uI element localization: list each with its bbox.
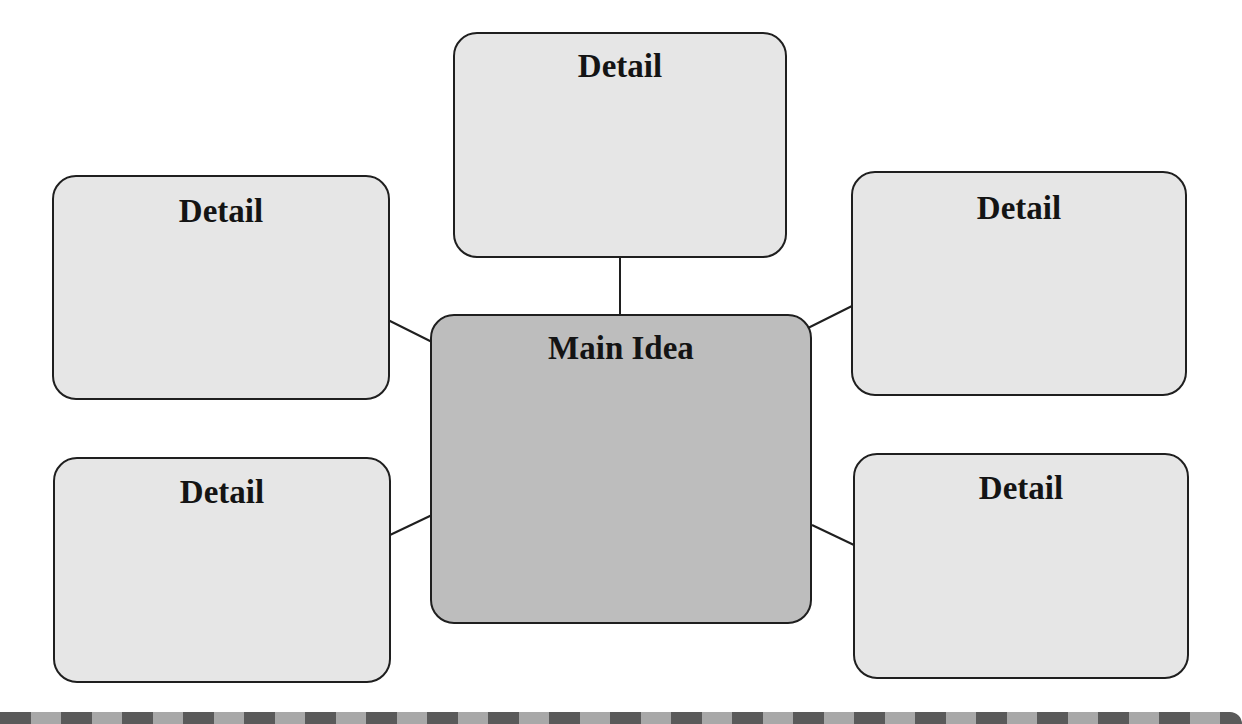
detail-title: Detail bbox=[455, 48, 785, 85]
connector-lower-right bbox=[812, 525, 854, 545]
detail-box-upper-left: Detail bbox=[52, 175, 390, 400]
connector-lower-left bbox=[390, 515, 432, 535]
main-idea-box: Main Idea bbox=[430, 314, 812, 624]
detail-box-lower-right: Detail bbox=[853, 453, 1189, 679]
footer-stripe bbox=[0, 712, 1242, 724]
connector-upper-left bbox=[388, 320, 432, 342]
main-idea-title: Main Idea bbox=[432, 330, 810, 367]
detail-title: Detail bbox=[54, 193, 388, 230]
detail-title: Detail bbox=[55, 474, 389, 511]
detail-box-upper-right: Detail bbox=[851, 171, 1187, 396]
detail-box-top: Detail bbox=[453, 32, 787, 258]
detail-title: Detail bbox=[853, 190, 1185, 227]
detail-box-lower-left: Detail bbox=[53, 457, 391, 683]
detail-title: Detail bbox=[855, 470, 1187, 507]
connector-upper-right bbox=[808, 306, 852, 328]
